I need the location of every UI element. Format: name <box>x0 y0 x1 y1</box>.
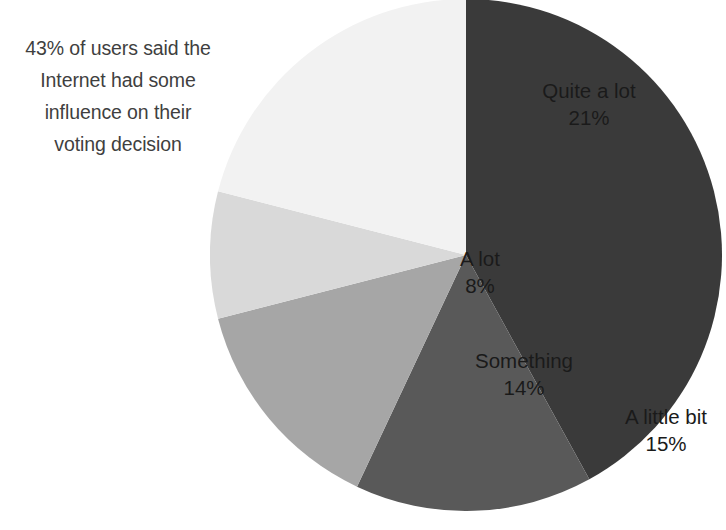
annotation-line-1: 43% of users said the <box>4 32 232 64</box>
annotation-line-2: Internet had some <box>4 64 232 96</box>
pie-chart-figure: 43% of users said the Internet had some … <box>0 0 726 530</box>
pie-graphic: Nothing 42% A little bit 15% Something 1… <box>210 0 722 511</box>
chart-annotation: 43% of users said the Internet had some … <box>4 32 232 160</box>
annotation-line-3: influence on their <box>4 96 232 128</box>
annotation-line-4: voting decision <box>4 128 232 160</box>
pie-svg <box>210 0 722 511</box>
